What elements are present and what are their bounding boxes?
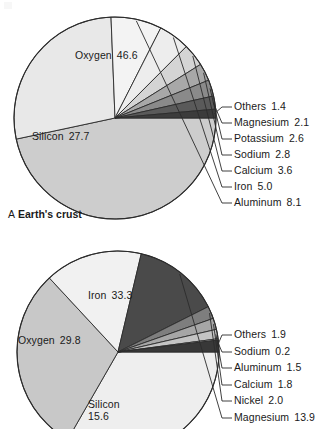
slice-label-name: Others [234,100,266,112]
slice-label-value: 1.5 [286,361,301,373]
slice-label-value: 1.8 [278,378,293,390]
pie-label-calcium: Calcium1.8 [234,378,293,390]
slice-label-name: Iron [234,180,253,192]
slice-label-name: Aluminum [234,361,281,373]
pie-label-silicon: Silicon27.7 [32,130,89,142]
pie-slice-silicon [14,17,115,139]
slice-label-name: Sodium [234,148,270,160]
slice-label-value: 1.9 [271,328,286,340]
slice-label-value: 13.9 [294,411,315,423]
slice-label-value: 2.1 [294,116,309,128]
slice-label-name: Oxygen [75,49,112,61]
slice-label-value: 0.2 [275,345,290,357]
slice-label-value: 3.6 [278,164,293,176]
slice-label-value: 8.1 [286,196,301,208]
slice-label-name: Calcium [234,378,273,390]
slice-label-value: 27.7 [69,130,90,142]
slice-label-name: Potassium [234,132,284,144]
pie-label-oxygen: Oxygen46.6 [75,49,138,61]
slice-label-value: 1.4 [271,100,286,112]
slice-label-value: 15.6 [88,410,120,422]
slice-label-name: Calcium [234,164,273,176]
pie-label-iron: Iron5.0 [234,180,272,192]
figure-caption: AEarth's crust [8,208,82,220]
pie-label-sodium: Sodium2.8 [234,148,290,160]
pie-earths-crust [14,17,216,219]
slice-label-name: Sodium [234,345,270,357]
slice-label-value: 2.6 [289,132,304,144]
slice-label-name: Silicon [32,130,64,142]
slice-label-name: Oxygen [18,334,55,346]
pie-label-sodium: Sodium0.2 [234,345,290,357]
slice-label-value: 2.8 [275,148,290,160]
pie-label-magnesium: Magnesium2.1 [234,116,309,128]
pie-label-oxygen: Oxygen29.8 [18,334,81,346]
pie-label-silicon: Silicon15.6 [88,398,120,422]
pie-label-others: Others1.4 [234,100,286,112]
leader-line-others [217,335,232,346]
pie-label-magnesium: Magnesium13.9 [234,411,315,423]
slice-label-name: Magnesium [234,116,289,128]
pie-label-calcium: Calcium3.6 [234,164,293,176]
slice-label-name: Aluminum [234,196,281,208]
pie-label-iron: Iron33.3 [88,289,132,301]
slice-label-name: Magnesium [234,411,289,423]
pie-label-nickel: Nickel2.0 [234,394,283,406]
pie-label-aluminum: Aluminum8.1 [234,196,301,208]
pie-label-potassium: Potassium2.6 [234,132,304,144]
caption-letter: A [8,208,15,220]
pie-chart-figure: Oxygen46.6Silicon27.7Aluminum8.1Iron5.0C… [0,0,324,429]
slice-label-value: 33.3 [112,289,133,301]
slice-label-value: 5.0 [258,180,273,192]
slice-label-name: Iron [88,289,107,301]
slice-label-value: 29.8 [60,334,81,346]
caption-title: Earth's crust [18,208,82,220]
pie-label-aluminum: Aluminum1.5 [234,361,301,373]
slice-label-value: 2.0 [268,394,283,406]
slice-label-name: Silicon [88,398,120,410]
pie-label-others: Others1.9 [234,328,286,340]
slice-label-value: 46.6 [117,49,138,61]
slice-label-name: Nickel [234,394,263,406]
slice-label-name: Others [234,328,266,340]
